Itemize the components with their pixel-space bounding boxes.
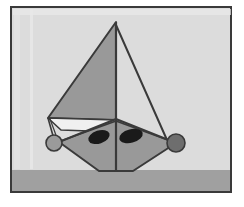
illustration-canvas [0, 0, 244, 207]
sky-highlight-vertical-2 [14, 9, 20, 169]
ground-strip [12, 170, 230, 191]
circle-left-bow-fitting [46, 135, 62, 151]
sailboat-figure [0, 0, 244, 207]
circle-right-stern-fitting [167, 134, 185, 152]
sky-highlight-streak [13, 9, 231, 15]
sky-highlight-vertical [30, 9, 33, 169]
